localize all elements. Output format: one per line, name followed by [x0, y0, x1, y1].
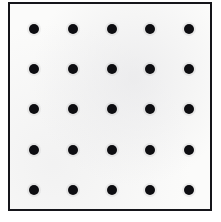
grid-dot [68, 64, 78, 74]
grid-dot [68, 104, 78, 114]
grid-dot [29, 145, 39, 155]
grid-dot [68, 185, 78, 195]
grid-dot [29, 104, 39, 114]
grid-dot [184, 145, 194, 155]
grid-dot [29, 24, 39, 34]
grid-dot [184, 185, 194, 195]
dot-grid-layer [0, 0, 221, 222]
grid-dot [184, 104, 194, 114]
grid-dot [29, 185, 39, 195]
grid-dot [145, 145, 155, 155]
grid-dot [107, 64, 117, 74]
grid-dot [184, 24, 194, 34]
grid-dot [145, 104, 155, 114]
grid-dot [145, 24, 155, 34]
grid-dot [68, 145, 78, 155]
grid-dot [107, 145, 117, 155]
grid-dot [184, 64, 194, 74]
grid-dot [107, 24, 117, 34]
grid-dot [29, 64, 39, 74]
grid-dot [107, 185, 117, 195]
dot-grid-figure [0, 0, 221, 222]
grid-dot [107, 104, 117, 114]
grid-dot [145, 64, 155, 74]
grid-dot [145, 185, 155, 195]
grid-dot [68, 24, 78, 34]
